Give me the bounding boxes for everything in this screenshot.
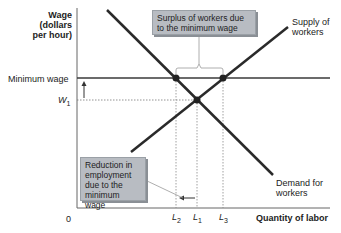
l1-label: L1 bbox=[193, 212, 202, 226]
y-label-line3: per hour) bbox=[28, 30, 72, 40]
demand-label-line2: workers bbox=[276, 188, 323, 198]
l3-sub: 3 bbox=[224, 217, 228, 224]
w1-main: W bbox=[58, 95, 67, 105]
reduction-pointer bbox=[145, 180, 183, 198]
reduction-callout: Reduction in employment due to the minim… bbox=[80, 157, 146, 201]
demand-label-line1: Demand for bbox=[276, 178, 323, 188]
demand-min-wage-point bbox=[173, 75, 180, 82]
supply-label: Supply of workers bbox=[292, 17, 330, 37]
supply-min-wage-point bbox=[220, 75, 227, 82]
l2-label: L2 bbox=[172, 212, 181, 226]
surplus-bracket bbox=[176, 64, 223, 74]
equilibrium-point bbox=[194, 97, 201, 104]
x-axis-label: Quantity of labor bbox=[256, 213, 328, 223]
l3-label: L3 bbox=[219, 212, 228, 226]
reduction-line2: employment bbox=[85, 170, 141, 180]
minimum-wage-label: Minimum wage bbox=[8, 74, 69, 84]
supply-label-line2: workers bbox=[292, 27, 330, 37]
w1-label: W1 bbox=[58, 95, 70, 109]
origin-label: 0 bbox=[66, 214, 71, 224]
supply-curve bbox=[131, 27, 288, 152]
supply-label-line1: Supply of bbox=[292, 17, 330, 27]
surplus-callout: Surplus of workers due to the minimum wa… bbox=[152, 10, 256, 35]
l2-sub: 2 bbox=[177, 217, 181, 224]
surplus-line1: Surplus of workers due bbox=[157, 13, 251, 23]
y-axis-label: Wage (dollars per hour) bbox=[28, 10, 72, 40]
l1-sub: 1 bbox=[198, 217, 202, 224]
w1-sub: 1 bbox=[67, 100, 71, 107]
reduction-line3: due to the bbox=[85, 180, 141, 190]
y-label-line2: (dollars bbox=[28, 20, 72, 30]
reduction-line1: Reduction in bbox=[85, 160, 141, 170]
surplus-line2: to the minimum wage bbox=[157, 23, 251, 33]
demand-label: Demand for workers bbox=[276, 178, 323, 198]
y-label-line1: Wage bbox=[28, 10, 72, 20]
reduction-line4: minimum wage bbox=[85, 190, 141, 210]
arrow-head-icon bbox=[82, 81, 87, 86]
